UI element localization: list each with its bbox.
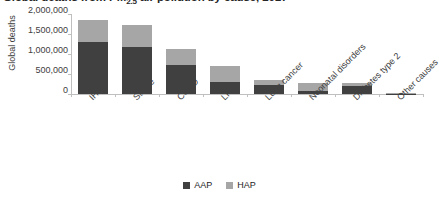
y-axis-tick-label: 0 [16,86,68,95]
y-axis-tick-label: 1,500,000 [16,26,68,35]
y-axis-tick-labels: 2,000,0001,500,0001,000,000500,0000 [16,10,68,94]
bar-ihd[interactable] [78,20,108,94]
legend-label: HAP [237,180,256,190]
bar-segment-aap[interactable] [78,42,108,94]
legend-item-hap[interactable]: HAP [226,180,256,190]
y-axis-tick-mark [68,14,71,15]
chart-title-text-pre: Global deaths from PM [3,0,126,3]
legend-swatch-icon [226,182,233,189]
legend-swatch-icon [183,182,190,189]
y-axis-tick-mark [68,54,71,55]
x-axis-category-labels: IHDStrokeCOPDLRILung cancerNeonatal diso… [71,95,431,165]
y-axis-line [71,14,72,94]
bar-segment-hap[interactable] [166,49,196,65]
chart-legend: AAPHAP [0,180,439,190]
chart-title-text-post: air pollution by cause, 2017 [137,0,288,3]
y-axis-tick-label: 1,000,000 [16,46,68,55]
y-axis-tick-mark [68,74,71,75]
bar-segment-hap[interactable] [78,20,108,42]
legend-label: AAP [194,180,212,190]
legend-item-aap[interactable]: AAP [183,180,212,190]
bar-segment-hap[interactable] [122,25,152,47]
y-axis-tick-label: 500,000 [16,66,68,75]
y-axis-tick-mark [68,34,71,35]
y-axis-tick-label: 2,000,000 [16,6,68,15]
bar-segment-hap[interactable] [210,66,240,82]
chart-container: Global deaths from PM2.5 air pollution b… [0,0,439,203]
chart-title-subscript: 2.5 [126,0,137,6]
